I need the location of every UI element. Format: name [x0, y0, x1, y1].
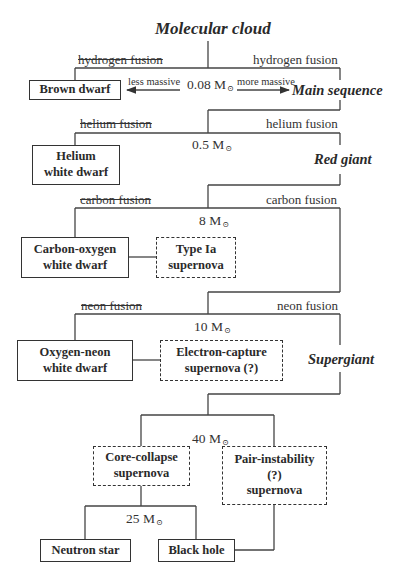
threshold-40: 40 M⊙: [192, 432, 229, 447]
threshold-25: 25 M⊙: [126, 512, 163, 527]
threshold-0.08: 0.08 M⊙: [187, 78, 234, 93]
threshold-10: 10 M⊙: [194, 320, 231, 335]
supergiant-label: Supergiant: [308, 352, 374, 367]
black-hole-box: Black hole: [158, 539, 235, 562]
threshold-0.5: 0.5 M⊙: [192, 138, 232, 153]
carbon-oxygen-white-dwarf-box: Carbon-oxygenwhite dwarf: [21, 237, 129, 278]
helium-fusion-fails-label: helium fusion: [80, 117, 152, 130]
brown-dwarf-box: Brown dwarf: [29, 80, 121, 100]
pair-instability-supernova-box: Pair-instability(?)supernova: [222, 446, 327, 505]
hydrogen-fusion-succeeds-label: hydrogen fusion: [253, 53, 338, 66]
oxygen-neon-white-dwarf-box: Oxygen-neonwhite dwarf: [17, 340, 133, 381]
hydrogen-fusion-fails-label: hydrogen fusion: [78, 53, 163, 66]
type-ia-supernova-box: Type Iasupernova: [156, 237, 236, 278]
threshold-8: 8 M⊙: [199, 214, 229, 229]
electron-capture-supernova-box: Electron-capturesupernova (?): [160, 340, 283, 381]
main-sequence-label: Main sequence: [292, 83, 383, 98]
neutron-star-box: Neutron star: [40, 539, 131, 562]
red-giant-label: Red giant: [314, 152, 372, 167]
core-collapse-supernova-box: Core-collapsesupernova: [93, 446, 190, 486]
molecular-cloud-title: Molecular cloud: [155, 20, 271, 37]
neon-fusion-succeeds-label: neon fusion: [277, 299, 338, 312]
carbon-fusion-fails-label: carbon fusion: [80, 193, 151, 206]
less-massive-label: less massive: [128, 77, 180, 88]
carbon-fusion-succeeds-label: carbon fusion: [266, 193, 337, 206]
more-massive-label: more massive: [237, 77, 295, 88]
helium-white-dwarf-box: Heliumwhite dwarf: [32, 145, 120, 185]
neon-fusion-fails-label: neon fusion: [81, 299, 142, 312]
helium-fusion-succeeds-label: helium fusion: [266, 117, 338, 130]
